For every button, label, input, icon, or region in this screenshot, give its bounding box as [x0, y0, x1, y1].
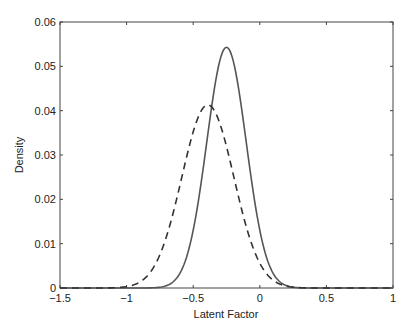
- dashed-density-curve: [60, 105, 393, 288]
- y-tick-label: 0.02: [35, 193, 56, 205]
- x-tick-label: 0.5: [319, 292, 334, 304]
- y-axis: 00.010.020.030.040.050.06: [35, 16, 393, 294]
- y-tick-label: 0.05: [35, 60, 56, 72]
- density-chart: 00.010.020.030.040.050.06 −1.5−1−0.500.5…: [0, 0, 411, 329]
- plot-area: [60, 22, 393, 288]
- series-group: [60, 47, 393, 288]
- y-tick-label: 0.06: [35, 16, 56, 28]
- y-tick-label: 0.01: [35, 238, 56, 250]
- x-axis-label: Latent Factor: [194, 308, 259, 320]
- x-tick-label: 1: [390, 292, 396, 304]
- x-tick-label: 0: [257, 292, 263, 304]
- y-tick-label: 0.04: [35, 105, 56, 117]
- solid-density-curve: [60, 47, 393, 288]
- x-axis: −1.5−1−0.500.51: [49, 22, 396, 304]
- y-axis-label: Density: [13, 136, 25, 173]
- y-tick-label: 0.03: [35, 149, 56, 161]
- x-tick-label: −1: [120, 292, 133, 304]
- x-tick-label: −0.5: [182, 292, 204, 304]
- x-tick-label: −1.5: [49, 292, 71, 304]
